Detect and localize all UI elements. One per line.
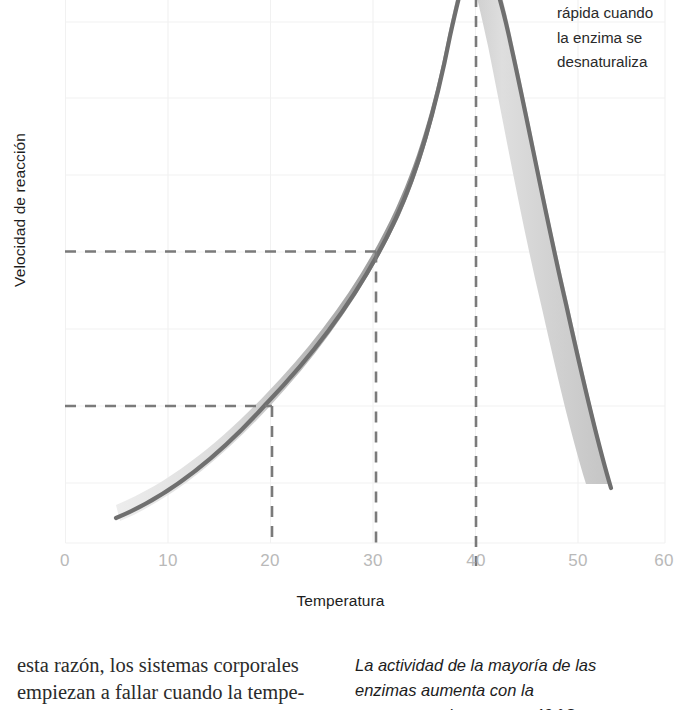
- denaturation-annotation-line-3: desnaturaliza: [557, 50, 681, 75]
- x-tick-20: 20: [240, 551, 300, 571]
- caption-line-3: temperatura hasta unos 40 °C: [355, 703, 665, 710]
- denaturation-annotation-line-1: rápida cuando: [557, 1, 681, 26]
- caption-text-column: La actividad de la mayoría de las enzima…: [355, 653, 665, 710]
- enzyme-activity-figure: Velocidad de reacción 0 10 20 30 40 50 6…: [0, 0, 681, 640]
- reaction-rate-plot: [0, 0, 681, 640]
- page-text-area: esta razón, los sistemas corporales empi…: [0, 640, 681, 710]
- x-tick-0: 0: [35, 551, 95, 571]
- x-tick-30: 30: [343, 551, 403, 571]
- body-text-line-2: empiezan a fallar cuando la tempe-: [17, 679, 317, 706]
- body-text-line-3: ratura es demasiado alta (hiperter: [17, 705, 317, 710]
- x-axis-title: Temperatura: [0, 592, 681, 610]
- reaction-rate-band: [116, 0, 611, 521]
- body-text-column: esta razón, los sistemas corporales empi…: [17, 652, 317, 710]
- x-axis-title-label: Temperatura: [296, 592, 384, 609]
- denaturation-annotation-line-2: la enzima se: [557, 26, 681, 51]
- x-tick-50: 50: [548, 551, 608, 571]
- denaturation-annotation: rápida cuando la enzima se desnaturaliza: [557, 1, 681, 75]
- x-tick-40: 40: [446, 551, 506, 571]
- x-tick-60: 60: [634, 551, 681, 571]
- body-text-line-1: esta razón, los sistemas corporales: [17, 652, 317, 679]
- x-tick-10: 10: [138, 551, 198, 571]
- caption-line-1: La actividad de la mayoría de las: [355, 653, 665, 678]
- caption-line-2: enzimas aumenta con la: [355, 678, 665, 703]
